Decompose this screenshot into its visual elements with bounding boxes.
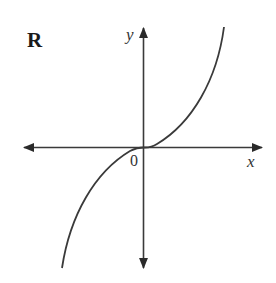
y-axis-label: y xyxy=(124,25,134,44)
x-axis-label: x xyxy=(246,152,255,171)
panel-label: R xyxy=(27,28,43,52)
origin-label: 0 xyxy=(130,152,138,169)
graph-canvas: R y x 0 xyxy=(0,0,276,283)
